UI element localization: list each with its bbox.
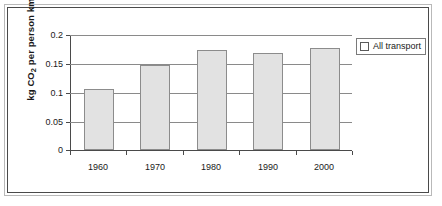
legend: All transport [356,38,426,55]
bar-1990 [253,53,283,150]
x-tick-label-2000: 2000 [314,162,334,172]
bar-1970 [140,65,170,150]
x-axis-line [70,150,352,151]
y-tick-mark-0.05 [66,122,70,123]
y-tick-label-0.2: 0.2 [50,30,63,40]
bar-2000 [310,48,340,150]
x-tick-mark-1 [126,151,127,155]
y-tick-mark-0.15 [66,64,70,65]
legend-swatch-icon [360,42,369,51]
y-axis-title-suffix: per person km [25,0,36,68]
figure-outer-frame: kg CO2 per person km 0.2 0.15 0.1 0.05 [4,4,432,196]
x-tick-label-1970: 1970 [145,162,165,172]
x-tick-mark-2 [183,151,184,155]
y-tick-mark-0.2 [66,35,70,36]
x-tick-label-1960: 1960 [88,162,108,172]
x-tick-label-1990: 1990 [258,162,278,172]
y-axis-title-subscript: 2 [29,68,38,72]
x-tick-mark-0 [70,151,71,155]
bar-1960 [84,89,114,150]
y-tick-label-0.05: 0.05 [45,117,63,127]
y-tick-label-0: 0 [58,145,63,155]
x-tick-label-1980: 1980 [201,162,221,172]
y-axis-title-prefix: kg CO [25,72,36,100]
y-tick-mark-0.1 [66,93,70,94]
bar-1980 [197,50,227,150]
y-tick-label-0.1: 0.1 [50,88,63,98]
figure-inner-frame: kg CO2 per person km 0.2 0.15 0.1 0.05 [7,7,429,193]
gridline-0.2 [70,35,352,36]
legend-label-all-transport: All transport [373,41,421,51]
y-tick-label-0.15: 0.15 [45,59,63,69]
x-tick-mark-3 [239,151,240,155]
plot-area: 0.2 0.15 0.1 0.05 0 [70,35,352,151]
x-tick-mark-5 [352,151,353,155]
bar-chart: kg CO2 per person km 0.2 0.15 0.1 0.05 [8,8,428,192]
x-tick-mark-4 [296,151,297,155]
y-axis-title: kg CO2 per person km [25,0,36,110]
